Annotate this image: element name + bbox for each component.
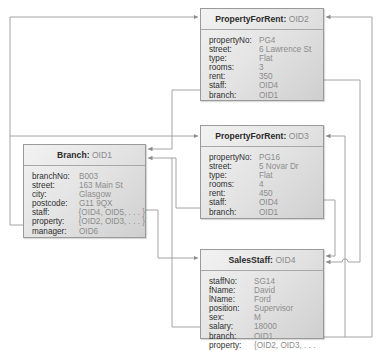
attribute-name: property: — [209, 341, 254, 350]
attribute-row: street:6 Lawrence St — [209, 45, 323, 54]
attribute-name: propertyNo: — [209, 36, 259, 45]
attribute-row: staff:{OID4, OID5, . . . } — [32, 208, 145, 217]
attribute-name: sex: — [209, 313, 254, 322]
attribute-row: type:Flat — [209, 171, 323, 180]
attribute-value: Supervisor — [254, 304, 293, 313]
attribute-name: rent: — [209, 72, 259, 81]
attribute-row: staffNo:SG14 — [209, 277, 323, 286]
pfr3-branch-to-branch-line — [148, 158, 200, 208]
pfr2-branch-to-branch-line — [148, 90, 200, 149]
attribute-value: OID6 — [79, 227, 98, 236]
attribute-row: street:163 Main St — [32, 181, 145, 190]
attribute-name: staff: — [32, 208, 79, 217]
attribute-value: 3 — [259, 63, 264, 72]
attribute-name: position: — [209, 304, 254, 313]
attribute-name: street: — [209, 45, 259, 54]
attribute-name: propertyNo: — [209, 153, 259, 162]
attribute-value: 4 — [259, 180, 264, 189]
attribute-value: B003 — [79, 172, 98, 181]
attribute-row: postcode:G11 9QX — [32, 199, 145, 208]
attribute-value: Ford — [254, 295, 271, 304]
attribute-name: property: — [32, 217, 79, 226]
attribute-name: manager: — [32, 227, 79, 236]
attribute-row: branchNo:B003 — [32, 172, 145, 181]
attribute-value: David — [254, 286, 275, 295]
class-name: PropertyForRent: — [215, 131, 286, 141]
attribute-name: street: — [32, 181, 79, 190]
attribute-row: property:{OID2, OID3, . . . } — [32, 217, 145, 226]
attribute-value: 450 — [259, 189, 273, 198]
attribute-name: street: — [209, 162, 259, 171]
attribute-value: M — [254, 313, 261, 322]
attribute-row: branch:OID1 — [209, 208, 323, 217]
object-box-property-oid2: PropertyForRent: OID2 propertyNo:PG4 str… — [200, 8, 324, 101]
attribute-value: Flat — [259, 54, 273, 63]
attribute-name: branchNo: — [32, 172, 79, 181]
attribute-row: fName:David — [209, 286, 323, 295]
attribute-list: staffNo:SG14 fName:David lName:Ford posi… — [201, 271, 323, 350]
attribute-row: propertyNo:PG4 — [209, 36, 323, 45]
attribute-row: lName:Ford — [209, 295, 323, 304]
attribute-row: street:5 Novar Dr — [209, 162, 323, 171]
attribute-value: OID1 — [259, 91, 278, 100]
attribute-value: OID4 — [259, 81, 278, 90]
class-name: SalesStaff: — [229, 255, 273, 265]
attribute-name: rent: — [209, 189, 259, 198]
attribute-row: branch:OID1 — [209, 91, 323, 100]
attribute-name: city: — [32, 190, 79, 199]
attribute-row: sex:M — [209, 313, 323, 322]
attribute-row: rent:350 — [209, 72, 323, 81]
attribute-value: 6 Lawrence St — [259, 45, 311, 54]
object-header: PropertyForRent: OID3 — [201, 126, 323, 147]
attribute-name: fName: — [209, 286, 254, 295]
attribute-row: rooms:3 — [209, 63, 323, 72]
attribute-value: 163 Main St — [79, 181, 123, 190]
object-header: PropertyForRent: OID2 — [201, 9, 323, 30]
pfr2-staff-to-staff-line — [324, 80, 360, 262]
pfr3-staff-to-staff-line — [324, 200, 335, 256]
attribute-row: manager:OID6 — [32, 227, 145, 236]
object-box-branch-oid1: Branch: OID1 branchNo:B003 street:163 Ma… — [23, 144, 146, 238]
attribute-row: branch:OID1 — [209, 332, 323, 341]
staff-property-to-pfr3-line — [326, 136, 345, 337]
attribute-row: city:Glasgow — [32, 190, 145, 199]
attribute-row: staff:OID4 — [209, 198, 323, 207]
attribute-row: salary:18000 — [209, 322, 323, 331]
attribute-value: Glasgow — [79, 190, 111, 199]
attribute-name: branch: — [209, 332, 254, 341]
class-name: Branch: — [57, 150, 89, 160]
attribute-name: postcode: — [32, 199, 79, 208]
attribute-value: PG4 — [259, 36, 275, 45]
attribute-name: staff: — [209, 81, 259, 90]
attribute-value: SG14 — [254, 277, 275, 286]
attribute-row: property:{OID2, OID3, . . . — [209, 341, 323, 350]
attribute-value: {OID2, OID3, . . . } — [79, 217, 145, 226]
attribute-name: rooms: — [209, 63, 259, 72]
attribute-value: 5 Novar Dr — [259, 162, 299, 171]
attribute-value: 18000 — [254, 322, 277, 331]
attribute-name: type: — [209, 54, 259, 63]
attribute-value: PG16 — [259, 153, 280, 162]
attribute-value: OID1 — [254, 332, 273, 341]
attribute-list: propertyNo:PG4 street:6 Lawrence St type… — [201, 30, 323, 100]
attribute-name: salary: — [209, 322, 254, 331]
class-name: PropertyForRent: — [215, 14, 286, 24]
attribute-list: propertyNo:PG16 street:5 Novar Dr type:F… — [201, 147, 323, 217]
attribute-row: rent:450 — [209, 189, 323, 198]
object-id: OID3 — [289, 131, 309, 141]
object-header: SalesStaff: OID4 — [201, 250, 323, 271]
attribute-value: {OID2, OID3, . . . — [254, 341, 315, 350]
attribute-value: 350 — [259, 72, 273, 81]
attribute-name: staffNo: — [209, 277, 254, 286]
attribute-value: OID4 — [259, 198, 278, 207]
attribute-value: OID1 — [259, 208, 278, 217]
attribute-name: type: — [209, 171, 259, 180]
attribute-name: branch: — [209, 91, 259, 100]
attribute-name: branch: — [209, 208, 259, 217]
object-box-salesstaff-oid4: SalesStaff: OID4 staffNo:SG14 fName:Davi… — [200, 249, 324, 339]
attribute-row: type:Flat — [209, 54, 323, 63]
staff-property-to-pfr2-line — [324, 17, 372, 337]
attribute-name: lName: — [209, 295, 254, 304]
object-id: OID2 — [289, 14, 309, 24]
attribute-name: staff: — [209, 198, 259, 207]
